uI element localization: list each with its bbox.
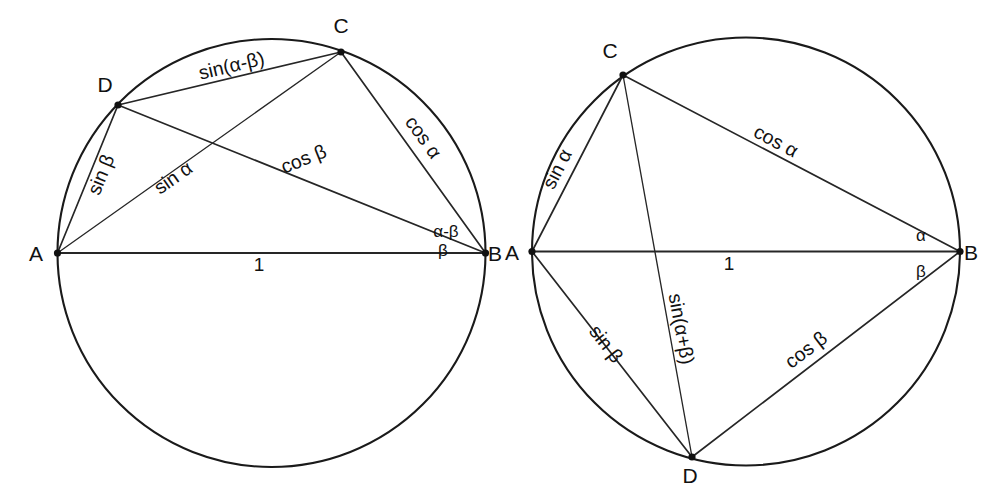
left-angle-label-alpha-minus-beta: α-β	[433, 222, 458, 241]
left-panel: A B C D sin(α-β) sin β sin α cos β cos α…	[29, 14, 502, 467]
right-vertex-label-b: B	[964, 241, 978, 264]
right-angle-label-beta: β	[916, 262, 926, 281]
figure-root: A B C D sin(α-β) sin β sin α cos β cos α…	[0, 0, 1007, 501]
right-angle-label-alpha: α	[916, 226, 926, 245]
left-vertex-label-d: D	[97, 73, 112, 96]
left-vertex-dot-c	[337, 48, 344, 55]
left-vertex-dot-a	[54, 249, 61, 256]
right-vertex-dot-d	[688, 453, 695, 460]
trigonometry-circle-diagrams: A B C D sin(α-β) sin β sin α cos β cos α…	[0, 0, 1007, 501]
left-vertex-dot-d	[114, 101, 121, 108]
right-panel: A B C D sin α cos α sin β sin(α+β) cos β…	[505, 38, 978, 488]
left-vertex-label-b: B	[488, 242, 502, 265]
right-vertex-dot-a	[528, 248, 535, 255]
right-vertex-label-a: A	[505, 241, 519, 264]
right-vertex-dot-c	[619, 71, 626, 78]
left-unit-label: 1	[254, 254, 265, 275]
left-vertex-label-c: C	[333, 14, 348, 37]
right-vertex-label-c: C	[602, 39, 617, 62]
left-angle-label-beta: β	[438, 241, 448, 260]
right-vertex-dot-b	[956, 248, 963, 255]
right-vertex-label-d: D	[682, 464, 697, 487]
left-vertex-label-a: A	[29, 242, 43, 265]
right-unit-label: 1	[724, 253, 735, 274]
